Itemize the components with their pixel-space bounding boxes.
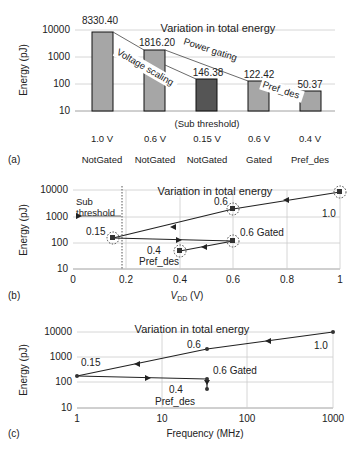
category-voltage: 0.4 V xyxy=(299,133,322,144)
y-tick: 10000 xyxy=(44,326,72,337)
category-mode: NotGated xyxy=(135,154,176,165)
category-voltage: 0.6 V xyxy=(144,133,167,144)
category-mode: NotGated xyxy=(82,154,123,165)
sub-label: Sub xyxy=(76,196,93,207)
y-tick: 1000 xyxy=(48,51,71,62)
category-voltage: 0.15 V xyxy=(193,133,221,144)
x-tick: 10 xyxy=(156,413,168,424)
point-label: 0.6 xyxy=(214,196,228,207)
panel-a-bar-chart: 10000 1000 100 10 Energy (pJ) Variation … xyxy=(8,15,335,165)
x-category-labels: 1.0 V 0.6 V 0.15 V 0.6 V 0.4 V NotGated … xyxy=(82,133,330,165)
y-tick: 1000 xyxy=(50,351,73,362)
y-tick: 1000 xyxy=(46,211,69,222)
value-label: 50.37 xyxy=(297,79,322,90)
point-label: Pref_des xyxy=(139,256,179,267)
category-mode: NotGated xyxy=(187,154,228,165)
category-voltage: 0.6 V xyxy=(248,133,271,144)
point-label: Pref_des xyxy=(155,396,195,407)
panel-c-y-ticks: 10000 1000 100 10 xyxy=(44,326,72,413)
bar-1v xyxy=(92,32,113,111)
y-axis-label: Energy (pJ) xyxy=(18,344,29,396)
point-label: 0.6 Gated xyxy=(240,227,284,238)
x-tick: 1 xyxy=(74,413,80,424)
x-axis-label: VDD (V) xyxy=(171,290,204,302)
x-tick: 0.6 xyxy=(226,274,240,285)
x-tick: 0 xyxy=(70,274,76,285)
value-label: 122.42 xyxy=(244,69,275,80)
sub-threshold-note: (Sub threshold) xyxy=(175,118,240,129)
point-label: 0.15 xyxy=(86,226,106,237)
chart-title: Variation in total energy xyxy=(135,323,250,335)
y-tick: 10 xyxy=(57,263,69,274)
x-axis-label: Frequency (MHz) xyxy=(166,428,243,439)
panel-b-y-ticks: 10000 1000 100 10 xyxy=(40,184,68,274)
point-label: 0.6 xyxy=(187,339,201,350)
panel-label-a: (a) xyxy=(8,154,20,165)
y-tick: 10000 xyxy=(42,24,70,35)
y-tick: 100 xyxy=(53,78,70,89)
power-gating-label: Power gating xyxy=(182,35,238,63)
panel-c-x-ticks: 1 10 100 1000 xyxy=(74,413,344,424)
x-tick: 0.8 xyxy=(280,274,294,285)
y-tick: 10000 xyxy=(40,184,68,195)
point-label: 1.0 xyxy=(322,208,336,219)
point-label: 0.4 xyxy=(147,245,161,256)
panel-b-gridlines xyxy=(73,190,340,269)
value-label: 146.38 xyxy=(193,67,224,78)
y-tick: 100 xyxy=(55,376,72,387)
point-label: 1.0 xyxy=(314,340,328,351)
panel-b-point-labels: 1.0 0.6 0.15 0.6 Gated 0.4 Pref_des xyxy=(86,196,336,267)
y-tick: 10 xyxy=(61,402,73,413)
category-voltage: 1.0 V xyxy=(91,133,114,144)
y-axis-label: Energy (pJ) xyxy=(18,204,29,256)
point-label: 0.4 xyxy=(169,384,183,395)
y-tick: 10 xyxy=(59,105,71,116)
x-tick: 0.4 xyxy=(173,274,187,285)
bar-015v xyxy=(196,79,217,111)
category-mode: Gated xyxy=(246,154,272,165)
y-tick: 100 xyxy=(51,237,68,248)
point-label: 0.6 Gated xyxy=(213,365,257,376)
panel-c-gridlines xyxy=(77,332,333,408)
figure: 10000 1000 100 10 Energy (pJ) Variation … xyxy=(0,0,361,453)
x-tick: 0.2 xyxy=(119,274,133,285)
x-tick: 1000 xyxy=(322,413,345,424)
panel-label-c: (c) xyxy=(8,428,20,439)
point-label: 0.15 xyxy=(81,357,101,368)
panel-a-y-ticks: 10000 1000 100 10 xyxy=(42,24,70,116)
x-tick: 100 xyxy=(239,413,256,424)
y-axis-label: Energy (pJ) xyxy=(18,44,29,96)
category-mode: Pref_des xyxy=(291,154,329,165)
chart-title: Variation in total energy xyxy=(161,22,276,34)
panel-c-frequency-chart: 10000 1000 100 10 1 10 100 1000 Energy (… xyxy=(8,323,345,439)
panel-b-vdd-chart: 10000 1000 100 10 0 0.2 0.4 0.6 0.8 1 En… xyxy=(8,184,346,302)
value-label: 1816.20 xyxy=(139,37,176,48)
panel-b-x-ticks: 0 0.2 0.4 0.6 0.8 1 xyxy=(70,274,343,285)
panel-label-b: (b) xyxy=(8,290,20,301)
value-label: 8330.40 xyxy=(82,15,119,26)
x-tick: 1 xyxy=(337,274,343,285)
